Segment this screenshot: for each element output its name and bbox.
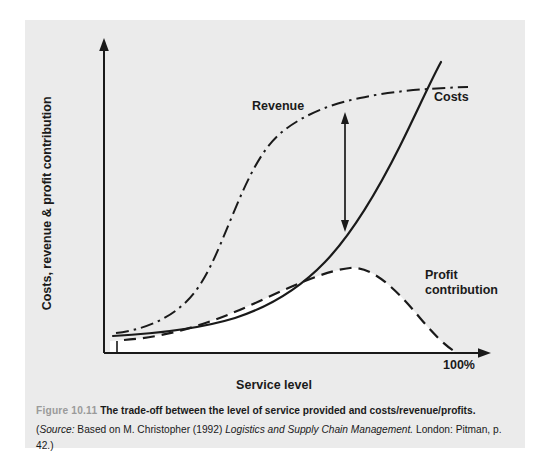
source-work-title: Logistics and Supply Chain Management. — [225, 424, 413, 435]
figure-source-line: (Source: Based on M. Christopher (1992) … — [36, 422, 514, 455]
chart-svg — [0, 0, 548, 468]
profit-fill-region — [110, 268, 455, 353]
x-axis-arrowhead-icon — [478, 348, 491, 358]
source-text-before: Based on M. Christopher (1992) — [75, 424, 226, 435]
gap-arrow-head-up-icon — [341, 112, 349, 124]
y-axis-arrowhead-icon — [99, 38, 109, 51]
gap-arrow-head-down-icon — [341, 220, 349, 232]
figure-container: Costs, revenue & profit contribution Ser… — [0, 0, 548, 468]
figure-caption-title: The trade-off between the level of servi… — [100, 405, 475, 416]
x-axis-max-tick-label: 100% — [443, 358, 475, 373]
figure-number: Figure 10.11 — [36, 405, 97, 416]
profit-series-label: Profit contribution — [425, 268, 525, 298]
revenue-series-label: Revenue — [252, 99, 304, 114]
y-axis-label: Costs, revenue & profit contribution — [40, 93, 55, 313]
x-axis-label: Service level — [0, 378, 548, 393]
chart-plot-area — [0, 0, 548, 468]
figure-caption: Figure 10.11 The trade-off between the l… — [36, 403, 514, 455]
source-keyword: Source: — [39, 424, 74, 435]
costs-series-label: Costs — [434, 90, 469, 105]
